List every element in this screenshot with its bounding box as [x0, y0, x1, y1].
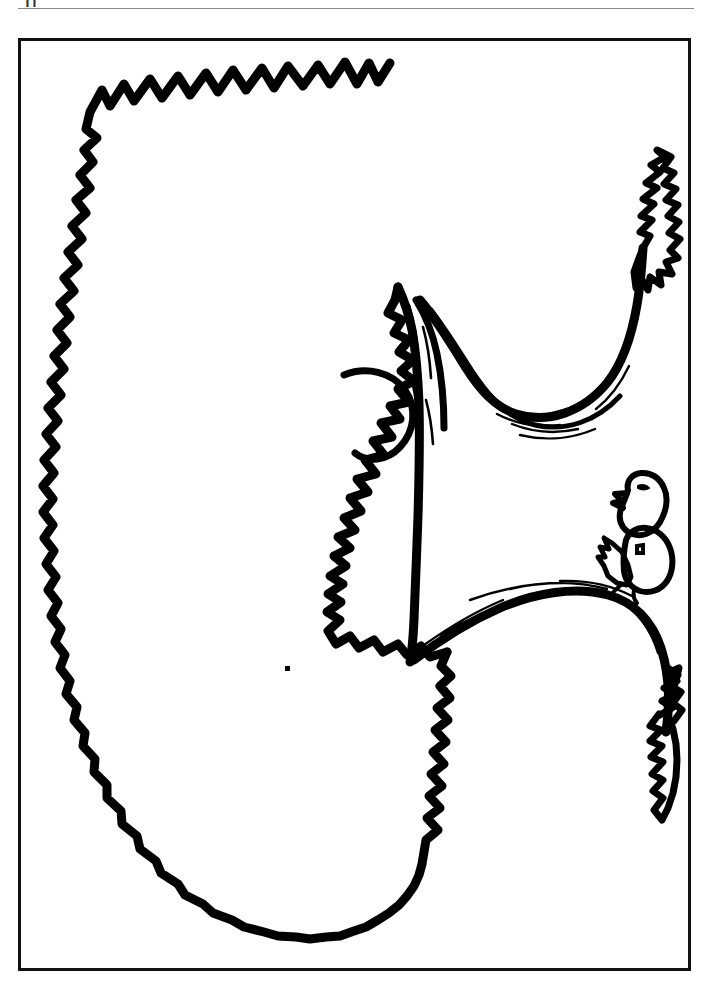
lower-branch: [414, 591, 669, 732]
upper-canopy: [43, 62, 451, 939]
canopy-notch: [327, 287, 447, 657]
upper-branch-underside: [431, 310, 620, 427]
branch-tip-lower-right: [650, 668, 682, 820]
bird-upper-beak: [613, 493, 627, 508]
bird-lower-eye: [637, 545, 643, 553]
scan-speck: [285, 666, 290, 671]
tree-illustration: [0, 0, 712, 991]
bird-upper-eye: [638, 485, 649, 490]
page-canvas: ii Tree Coloring Page: [0, 0, 712, 991]
upper-branch: [420, 248, 643, 417]
